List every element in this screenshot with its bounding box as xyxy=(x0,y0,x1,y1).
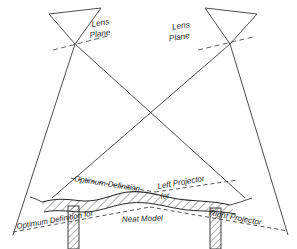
left-projector-text: Left Projector xyxy=(157,174,206,191)
optimum-definition-upper-label: Optimum Definition xyxy=(74,174,141,193)
right-cone-ray-outer xyxy=(230,44,288,235)
model-flare-right xyxy=(230,198,252,205)
optimum-definition-upper-text: Optimum Definition xyxy=(74,174,141,193)
right-lens-upper-triangle xyxy=(205,8,257,44)
lens-plane-left-label: Lens Plane xyxy=(89,17,112,40)
lens-plane-right-line1-text: Lens xyxy=(171,20,190,32)
neat-model-label: Neat Model xyxy=(122,214,163,224)
photogrammetry-diagram: Lens Plane Lens Plane xyxy=(0,0,297,249)
lens-plane-lines xyxy=(53,36,253,50)
lens-plane-left-line2-text: Plane xyxy=(89,28,112,40)
for-upper-label: for xyxy=(160,191,170,201)
for-upper-text: for xyxy=(160,191,170,201)
lens-plane-right-line2-text: Plane xyxy=(168,31,191,43)
neat-model-text: Neat Model xyxy=(122,214,163,224)
lens-plane-right-label: Lens Plane xyxy=(168,20,191,43)
model-flare-left xyxy=(30,197,42,202)
left-cone-ray-inner xyxy=(75,44,245,198)
left-projector-label: Left Projector xyxy=(157,174,206,191)
figure-canvas: Lens Plane Lens Plane xyxy=(0,0,297,249)
